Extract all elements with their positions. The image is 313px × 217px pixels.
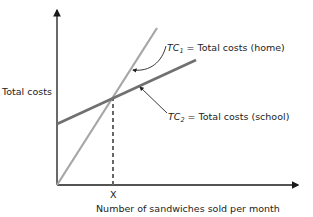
tc2-pointer-arrow <box>140 87 167 113</box>
x-axis-label: Number of sandwiches sold per month <box>96 203 280 214</box>
chart: Total costs X Number of sandwiches sold … <box>0 0 313 217</box>
x-tick-label: X <box>110 189 117 200</box>
y-axis-label: Total costs <box>1 86 52 97</box>
tc1-line <box>57 28 157 185</box>
tc1-label: TC1 = Total costs (home) <box>167 42 285 55</box>
tc2-label: TC2 = Total costs (school) <box>168 111 289 124</box>
